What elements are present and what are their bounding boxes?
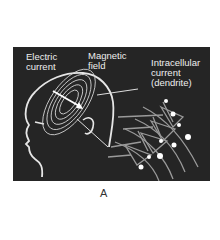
pointer-cortex <box>77 119 108 147</box>
label-electric-current: Electric current <box>26 52 57 72</box>
label-intracellular-current: Intracellular current (dendrite) <box>151 58 200 88</box>
figure-caption: A <box>100 187 107 199</box>
pointer-magnetic <box>97 89 138 95</box>
label-magnetic-field: Magnetic field <box>88 51 127 71</box>
neuron-cluster <box>108 102 198 181</box>
diagram-panel: Electric current Magnetic field Intracel… <box>13 47 210 181</box>
